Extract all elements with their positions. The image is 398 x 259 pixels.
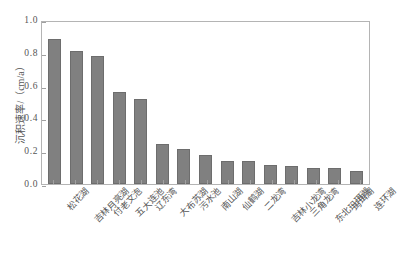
bar	[199, 155, 212, 184]
y-tick-mark	[42, 153, 46, 154]
x-tick-mark	[141, 180, 142, 184]
x-tick-mark	[360, 180, 361, 184]
bar	[177, 149, 190, 184]
bar-series	[42, 22, 369, 184]
bar	[70, 51, 83, 184]
bar	[264, 165, 277, 184]
x-tick-mark	[75, 180, 76, 184]
x-tick-mark	[272, 180, 273, 184]
y-tick-mark	[42, 120, 46, 121]
x-tick-mark	[316, 180, 317, 184]
bar	[156, 144, 169, 184]
x-tick-mark	[250, 180, 251, 184]
bar	[242, 161, 255, 184]
y-tick-mark	[42, 22, 46, 23]
x-tick-mark	[185, 180, 186, 184]
y-axis-tick-labels: 1.00.80.60.40.20.0	[6, 0, 38, 259]
x-tick-mark	[163, 180, 164, 184]
bar	[328, 168, 341, 184]
bar	[307, 168, 320, 184]
x-tick-label: 仙鹤湖	[240, 186, 266, 212]
x-axis-tick-labels: 松花湖吉林月亮湖付老文泡五大连池辽东湾大布苏湖污水池南山湖仙鹤湖二龙湾吉林小龙湾…	[41, 186, 370, 259]
bar	[285, 166, 298, 184]
x-tick-label: 二龙湾	[262, 186, 288, 212]
y-tick-label: 0.4	[10, 114, 38, 124]
y-tick-label: 0.0	[10, 180, 38, 190]
y-tick-label: 1.0	[10, 16, 38, 26]
x-tick-mark	[228, 180, 229, 184]
bar	[221, 161, 234, 184]
x-tick-mark	[294, 180, 295, 184]
y-tick-mark	[42, 88, 46, 89]
x-tick-label: 连环湖	[372, 186, 398, 212]
bar	[91, 56, 104, 184]
y-tick-label: 0.8	[10, 49, 38, 59]
x-tick-mark	[97, 180, 98, 184]
bar	[113, 92, 126, 184]
plot-area	[41, 21, 370, 185]
x-tick-label: 南山湖	[218, 186, 244, 212]
y-tick-mark	[42, 55, 46, 56]
bar	[134, 99, 147, 184]
x-tick-mark	[53, 180, 54, 184]
x-tick-mark	[207, 180, 208, 184]
y-tick-label: 0.6	[10, 82, 38, 92]
x-tick-mark	[119, 180, 120, 184]
y-tick-label: 0.2	[10, 147, 38, 157]
bar	[48, 39, 61, 184]
x-tick-mark	[338, 180, 339, 184]
x-tick-label: 松花湖	[65, 186, 91, 212]
